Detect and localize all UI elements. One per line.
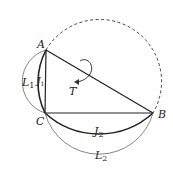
label-C: C bbox=[36, 115, 45, 128]
label-L1: L1 bbox=[21, 76, 34, 90]
dashed-arc-AB bbox=[46, 19, 162, 113]
label-T: T bbox=[69, 85, 78, 98]
label-J1: J1 bbox=[35, 76, 44, 87]
rotation-arrow-icon bbox=[77, 60, 92, 82]
label-B: B bbox=[157, 108, 166, 121]
label-L2: L2 bbox=[94, 149, 107, 163]
label-A: A bbox=[36, 38, 45, 51]
segment-AB bbox=[46, 50, 153, 113]
geometry-diagram: A B C L1 J1 J2 L2 T bbox=[0, 0, 173, 179]
segment-AC bbox=[45, 50, 46, 113]
label-J2: J2 bbox=[92, 125, 104, 139]
